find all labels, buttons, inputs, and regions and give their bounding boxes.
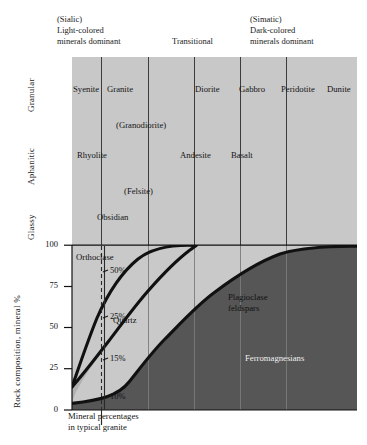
rock-label-andesite: Andesite <box>180 150 211 160</box>
granite-callout-25: 25% <box>110 311 126 321</box>
rock-label-granite: Granite <box>107 84 133 94</box>
y-tick-100: 100 <box>36 239 58 249</box>
granite-caption: Mineral percentages in typical granite <box>68 411 139 433</box>
y-tick-0: 0 <box>36 404 58 414</box>
chart-canvas <box>0 0 367 445</box>
rock-label-diorite: Diorite <box>195 84 220 94</box>
rock-label-granodiorite: (Granodiorite) <box>116 120 166 130</box>
y-tick-25: 25 <box>36 362 58 372</box>
rock-label-dunite: Dunite <box>327 84 351 94</box>
y-tick-50: 50 <box>36 321 58 331</box>
region-label-orthoclase: Orthoclase <box>76 252 114 263</box>
rock-label-obsidian: Obsidian <box>97 212 128 222</box>
rock-label-rhyolite: Rhyolite <box>77 150 107 160</box>
y-tick-75: 75 <box>36 280 58 290</box>
granite-callout-50: 50% <box>110 265 126 275</box>
rock-label-syenite: Syenite <box>73 84 99 94</box>
granite-callout-10: 10% <box>110 391 126 401</box>
region-label-ferromagnesians: Ferromagnesians <box>245 353 304 364</box>
rock-label-gabbro: Gabbro <box>239 84 265 94</box>
rock-label-basalt: Basalt <box>231 150 253 160</box>
y-axis-ticks <box>64 245 72 410</box>
rock-label-peridotite: Peridotite <box>281 84 315 94</box>
granite-callout-15: 15% <box>110 353 126 363</box>
region-label-plagioclase: Plagioclase feldspars <box>228 292 268 313</box>
rock-label-felsite: (Felsite) <box>124 186 153 196</box>
igneous-rock-chart: (Sialic) Light-colored minerals dominant… <box>0 0 367 445</box>
